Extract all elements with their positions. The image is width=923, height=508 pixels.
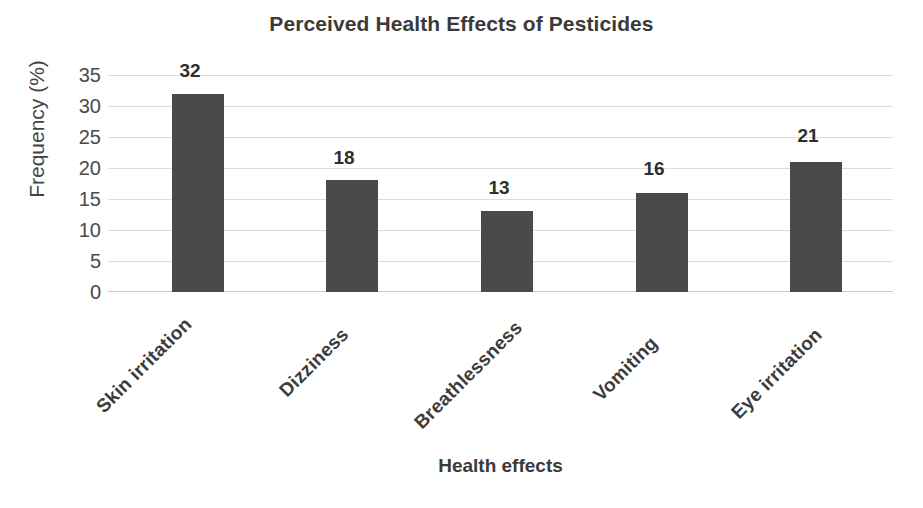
bar-dizziness[interactable]: [326, 180, 378, 292]
y-tick-label: 30: [55, 96, 101, 116]
gridline-15: [108, 199, 893, 200]
bar-vomiting[interactable]: [636, 193, 688, 292]
y-tick-label: 0: [55, 282, 101, 302]
bar-skin-irritation[interactable]: [172, 94, 224, 292]
x-tick-label-eye-irritation: Eye irritation: [727, 324, 827, 424]
y-tick-label: 5: [55, 251, 101, 271]
data-label-dizziness: 18: [304, 148, 384, 167]
bar-eye-irritation[interactable]: [790, 162, 842, 292]
y-tick-label: 20: [55, 158, 101, 178]
y-tick-label: 35: [55, 65, 101, 85]
chart-title: Perceived Health Effects of Pesticides: [0, 12, 923, 36]
gridline-20: [108, 168, 893, 169]
data-label-breathlessness: 13: [459, 178, 539, 197]
x-axis-title: Health effects: [108, 455, 893, 477]
data-label-vomiting: 16: [614, 159, 694, 178]
gridline-30: [108, 106, 893, 107]
x-tick-label-vomiting: Vomiting: [589, 332, 662, 405]
data-label-eye-irritation: 21: [768, 126, 848, 145]
data-label-skin-irritation: 32: [150, 61, 230, 80]
x-tick-label-skin-irritation: Skin irritation: [92, 313, 196, 417]
bar-breathlessness[interactable]: [481, 211, 533, 292]
y-axis-title: Frequency (%): [25, 34, 49, 224]
y-tick-label: 10: [55, 220, 101, 240]
x-tick-label-breathlessness: Breathlessness: [410, 317, 527, 434]
y-tick-label: 25: [55, 127, 101, 147]
y-tick-label: 15: [55, 189, 101, 209]
bar-chart-figure: Perceived Health Effects of Pesticides F…: [0, 0, 923, 508]
x-tick-label-dizziness: Dizziness: [275, 323, 353, 401]
